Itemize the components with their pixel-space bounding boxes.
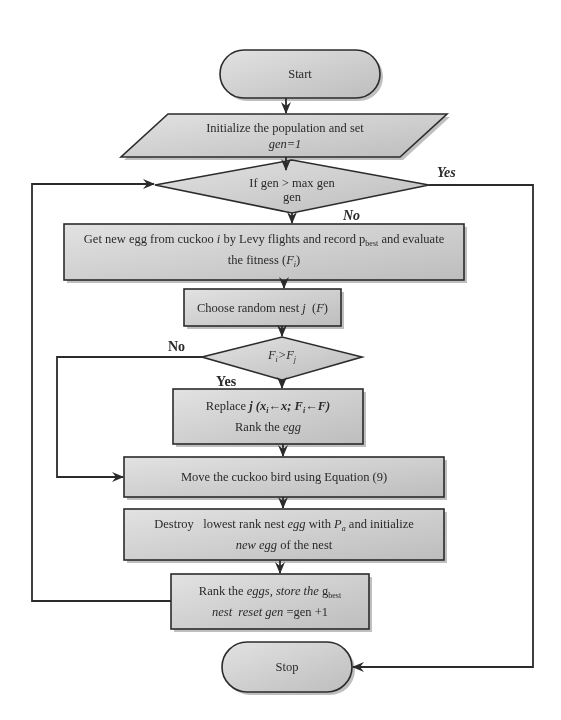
edge-label-decision2-no: No	[168, 339, 185, 355]
move-label: Move the cuckoo bird using Equation (9)	[124, 457, 444, 497]
stop-label: Stop	[222, 642, 352, 692]
edge-label-decision1-yes: Yes	[437, 165, 456, 181]
decision2-label: Fi>Fj	[242, 345, 322, 369]
decision1-label: If gen > max gen gen	[210, 170, 374, 210]
edge-label-decision1-no: No	[343, 208, 360, 224]
init-line2: gen=1	[269, 136, 302, 152]
get-egg-line1: Get new egg from cuckoo i by Levy flight…	[84, 231, 444, 252]
destroy-label: Destroy lowest rank nest egg with Pa and…	[124, 509, 444, 560]
start-label: Start	[220, 50, 380, 98]
choose-nest-label: Choose random nest j (F)	[184, 289, 341, 326]
get-egg-line2: the fitness (Fi)	[228, 252, 300, 273]
init-line1: Initialize the population and set	[206, 120, 364, 136]
edge-label-decision2-yes: Yes	[216, 374, 236, 390]
replace-label: Replace j (xi←x; Fi←F) Rank the egg	[173, 389, 363, 444]
rank-label: Rank the eggs, store the gbest nest rese…	[171, 574, 369, 629]
get-egg-label: Get new egg from cuckoo i by Levy flight…	[64, 224, 464, 280]
init-label: Initialize the population and set gen=1	[140, 114, 430, 157]
